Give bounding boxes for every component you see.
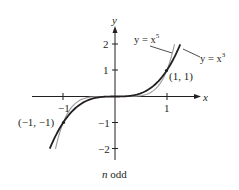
point-1-1 (165, 69, 168, 72)
y-tick-label-neg2: −2 (98, 143, 110, 155)
y-axis-arrow-icon (113, 26, 118, 33)
curve-label-x5-base: y = x (134, 34, 156, 45)
curve-label-x3-exp: 3 (222, 51, 226, 59)
curve-label-x3: y = x3 (200, 51, 226, 64)
curve-label-x5-exp: 5 (156, 32, 160, 40)
curve-label-x5: y = x5 (134, 32, 160, 45)
point-label-neg1-neg1: (−1, −1) (18, 116, 55, 129)
point-label-1-1: (1, 1) (169, 70, 193, 83)
caption: n odd (102, 168, 127, 180)
leader-line-x5 (150, 46, 172, 53)
y-tick-label-1: 1 (103, 64, 109, 76)
y-tick-label-neg1: −1 (98, 117, 110, 129)
point-neg1-neg1 (62, 121, 65, 124)
y-axis-label: y (111, 14, 117, 26)
power-function-graph: x y −1 1 2 1 −1 −2 (1, 1) (−1, −1) y = x… (0, 0, 239, 190)
leader-line-x3 (183, 49, 200, 57)
y-tick-label-2: 2 (103, 38, 109, 50)
x-tick-label-1: 1 (164, 102, 170, 114)
x-axis-label: x (202, 91, 208, 103)
curve-label-x3-base: y = x (200, 53, 222, 64)
x-axis-arrow-icon (194, 94, 201, 99)
caption-rest: odd (108, 168, 128, 180)
